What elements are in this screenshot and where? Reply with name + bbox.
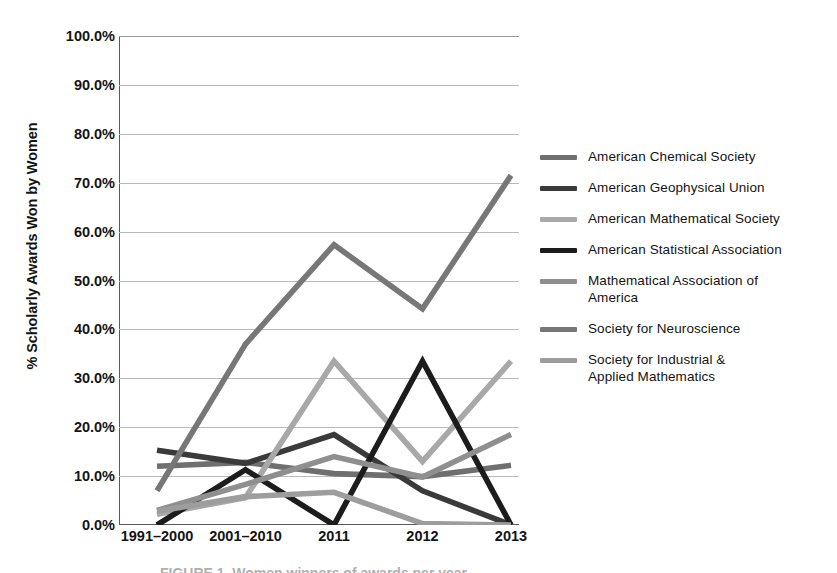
y-tick-label: 60.0%: [15, 224, 115, 240]
legend-label: Society for Neuroscience: [588, 320, 740, 337]
legend: American Chemical SocietyAmerican Geophy…: [540, 148, 832, 399]
x-tick-label: 2013: [495, 528, 527, 544]
legend-item[interactable]: American Mathematical Society: [540, 210, 832, 227]
caption-sliver: FIGURE 1. Women winners of awards per ye…: [160, 565, 560, 573]
y-tick-label: 10.0%: [15, 468, 115, 484]
legend-swatch-icon: [540, 217, 577, 222]
series-line: [157, 435, 511, 525]
line-chart: % Scholarly Awards Won by Women 0.0%10.0…: [0, 0, 837, 573]
x-tick-label: 2011: [318, 528, 349, 544]
legend-label: American Mathematical Society: [588, 210, 780, 227]
series-line: [157, 462, 511, 476]
legend-label: Mathematical Association of America: [588, 272, 758, 306]
legend-item[interactable]: Mathematical Association of America: [540, 272, 832, 306]
x-tick-label: 2001–2010: [209, 528, 282, 544]
y-tick-label: 90.0%: [15, 77, 115, 93]
legend-item[interactable]: American Statistical Association: [540, 241, 832, 258]
legend-label: American Geophysical Union: [588, 179, 765, 196]
y-axis-tick-labels: 0.0%10.0%20.0%30.0%40.0%50.0%60.0%70.0%8…: [10, 0, 115, 573]
x-tick-label: 2012: [406, 528, 438, 544]
y-tick-label: 30.0%: [15, 370, 115, 386]
x-axis-tick-labels: 1991–20002001–2010201120122013: [119, 528, 519, 558]
legend-swatch-icon: [540, 186, 577, 191]
legend-swatch-icon: [540, 279, 577, 284]
series-line: [157, 175, 511, 490]
series-lines: [119, 36, 519, 525]
legend-label: American Statistical Association: [588, 241, 782, 258]
legend-swatch-icon: [540, 358, 577, 363]
y-tick-label: 50.0%: [15, 273, 115, 289]
y-tick-label: 40.0%: [15, 321, 115, 337]
y-tick-label: 70.0%: [15, 175, 115, 191]
legend-swatch-icon: [540, 248, 577, 253]
legend-swatch-icon: [540, 327, 577, 332]
plot-area: [119, 36, 519, 525]
y-tick-label: 100.0%: [15, 28, 115, 44]
y-tick-label: 0.0%: [15, 517, 115, 533]
legend-item[interactable]: Society for Neuroscience: [540, 320, 832, 337]
legend-swatch-icon: [540, 155, 577, 160]
legend-item[interactable]: American Geophysical Union: [540, 179, 832, 196]
y-tick-label: 80.0%: [15, 126, 115, 142]
legend-item[interactable]: American Chemical Society: [540, 148, 832, 165]
y-tick-label: 20.0%: [15, 419, 115, 435]
legend-label: American Chemical Society: [588, 148, 756, 165]
legend-item[interactable]: Society for Industrial & Applied Mathema…: [540, 351, 832, 385]
x-tick-label: 1991–2000: [121, 528, 194, 544]
legend-label: Society for Industrial & Applied Mathema…: [588, 351, 725, 385]
